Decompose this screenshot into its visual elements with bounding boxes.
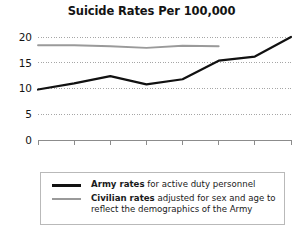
gridlines-group: [38, 37, 291, 140]
army-line-swatch: [52, 184, 81, 187]
plot-area: 05101520 2001200220032004200520062007200…: [0, 28, 303, 148]
legend-label-civilian-bold: Civilian rates: [91, 193, 155, 203]
y-tick-label-15: 15: [19, 57, 32, 69]
x-tick-label-2006: 2006: [207, 146, 231, 148]
legend-label-army-rest: for active duty personnel: [145, 179, 256, 189]
y-tick-label-0: 0: [25, 134, 32, 146]
chart-title: Suicide Rates Per 100,000: [0, 4, 303, 18]
y-tick-label-5: 5: [25, 108, 32, 120]
legend-label-civilian: Civilian rates adjusted for sex and age …: [91, 193, 286, 215]
x-axis-tick-labels: 20012002200320042005200620072008: [26, 146, 303, 148]
chart-legend: Army rates for active duty personnel Civ…: [40, 172, 285, 225]
x-tick-label-2004: 2004: [134, 146, 158, 148]
x-tick-label-2003: 2003: [98, 146, 122, 148]
legend-swatch-cell-army: [41, 179, 91, 187]
y-tick-label-20: 20: [19, 31, 32, 43]
legend-label-army-bold: Army rates: [91, 179, 145, 189]
plot-svg: 05101520 2001200220032004200520062007200…: [0, 28, 303, 148]
x-tick-label-2008: 2008: [279, 146, 303, 148]
series-line-civilian-rates: [38, 45, 219, 48]
legend-label-army: Army rates for active duty personnel: [91, 179, 261, 190]
data-series-group: [38, 37, 291, 90]
x-tick-label-2005: 2005: [170, 146, 194, 148]
suicide-rates-chart-figure: Suicide Rates Per 100,000 05101520 20012…: [0, 0, 303, 241]
legend-entry-army: Army rates for active duty personnel: [41, 179, 286, 190]
legend-entry-civilian: Civilian rates adjusted for sex and age …: [41, 193, 286, 215]
civilian-line-swatch: [52, 198, 81, 200]
y-tick-label-10: 10: [19, 82, 32, 94]
x-tick-label-2001: 2001: [26, 146, 50, 148]
x-tick-label-2002: 2002: [62, 146, 86, 148]
x-axis-ticks: [38, 140, 291, 145]
y-axis-tick-labels: 05101520: [19, 31, 32, 146]
x-tick-label-2007: 2007: [243, 146, 267, 148]
legend-swatch-cell-civilian: [41, 193, 91, 200]
